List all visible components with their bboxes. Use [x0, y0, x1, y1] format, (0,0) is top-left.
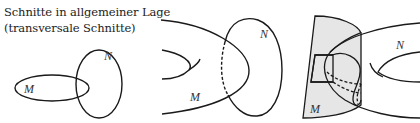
manifold-n-hidden-arc	[222, 42, 228, 95]
figure-1: M N	[15, 49, 122, 118]
surface-n-inner-tick	[370, 63, 383, 77]
manifold-n-front-arc	[225, 19, 282, 116]
label-n: N	[395, 38, 405, 52]
label-n: N	[259, 27, 269, 41]
label-m: M	[309, 102, 321, 116]
figure-2: M N	[161, 19, 282, 116]
label-m: M	[189, 90, 201, 104]
figure-3: M N	[303, 16, 420, 118]
manifold-m-inner-curve	[162, 50, 190, 79]
surface-n-inner-curve	[378, 52, 420, 82]
diagram-canvas: M N M N M N	[0, 0, 420, 123]
label-m: M	[23, 82, 35, 96]
label-n: N	[103, 49, 113, 63]
manifold-n-ellipse	[76, 50, 122, 118]
manifold-m-outer-curve	[161, 20, 249, 114]
